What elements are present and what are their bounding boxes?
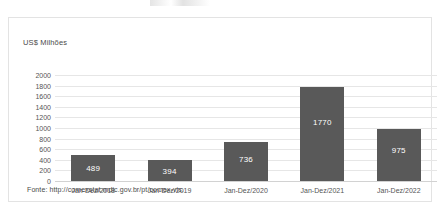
y-axis-tick-label: 1000 (11, 125, 51, 132)
y-axis-tick-label: 1200 (11, 114, 51, 121)
bar-group: 736Jan-Dez/2020 (208, 75, 284, 181)
x-axis-tick-label: Jan-Dez/2022 (377, 187, 421, 194)
bar: 394 (148, 160, 192, 181)
bar-group: 394Jan-Dez/2019 (131, 75, 207, 181)
y-axis-tick-label: 400 (11, 156, 51, 163)
plot-area: 0200400600800100012001400160018002000 48… (55, 75, 437, 181)
x-axis-tick-label: Jan-Dez/2020 (224, 187, 268, 194)
bar: 975 (377, 129, 421, 181)
y-axis-tick-label: 2000 (11, 72, 51, 79)
y-axis-tick-label: 200 (11, 167, 51, 174)
y-axis-tick-label: 0 (11, 178, 51, 185)
bar-group: 1770Jan-Dez/2021 (284, 75, 360, 181)
bar-value-label: 975 (377, 146, 421, 155)
y-axis-tick-label: 600 (11, 146, 51, 153)
y-axis-tick-label: 1600 (11, 93, 51, 100)
y-axis-tick-label: 800 (11, 135, 51, 142)
bar: 489 (71, 155, 115, 181)
bar-group: 975Jan-Dez/2022 (361, 75, 437, 181)
x-axis-tick-label: Jan-Dez/2021 (301, 187, 345, 194)
chart-screenshot: US$ Milhões 0200400600800100012001400160… (0, 0, 441, 211)
bar-group: 489Jan-Dez/2018 (55, 75, 131, 181)
bar-value-label: 489 (71, 164, 115, 173)
bar-value-label: 1770 (300, 118, 344, 127)
bar: 1770 (300, 87, 344, 181)
bar-value-label: 394 (148, 167, 192, 176)
y-axis-tick-label: 1800 (11, 82, 51, 89)
chart-frame: US$ Milhões 0200400600800100012001400160… (8, 17, 432, 202)
bar-series: 489Jan-Dez/2018394Jan-Dez/2019736Jan-Dez… (55, 75, 437, 181)
gridline (55, 181, 437, 182)
y-axis-tick-label: 1400 (11, 103, 51, 110)
y-axis-title: US$ Milhões (23, 38, 67, 47)
source-footnote: Fonte: http://comexstat.mdic.gov.br/pt/c… (27, 186, 184, 193)
bar-value-label: 736 (224, 155, 268, 164)
scan-artifact (150, 0, 210, 6)
bar: 736 (224, 142, 268, 181)
